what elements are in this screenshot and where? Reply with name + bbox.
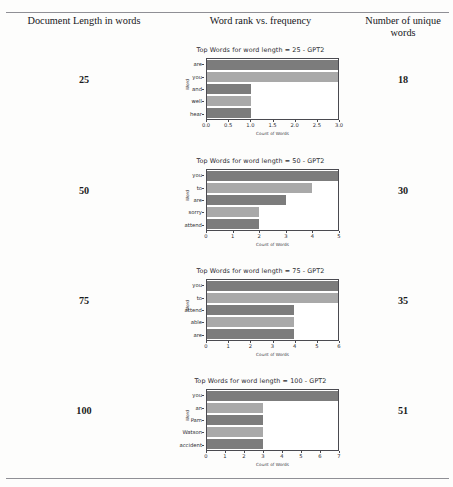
bar-slot [207,71,338,83]
bar-series [207,170,338,230]
cell-word-rank-chart: Top Words for word length = 25 - GPT2Wor… [168,46,353,146]
bar [207,84,251,93]
y-tick-label: Watson [182,426,204,438]
bar-series [207,280,338,340]
x-tick-label: 4 [280,453,283,459]
x-axis-label: Count of Words [206,462,339,467]
y-axis-ticks [202,279,204,341]
y-axis-ticks [202,389,204,451]
bar [207,305,294,314]
bar-series [207,59,338,119]
table-top-rule [6,12,449,13]
bar [207,183,312,192]
cell-word-rank-chart: Top Words for word length = 50 - GPT2Wor… [168,157,353,257]
bar-slot [207,426,338,438]
bar [207,293,338,302]
cell-document-length: 100 [0,377,168,416]
cell-word-rank-chart: Top Words for word length = 100 - GPT2Wo… [168,377,353,477]
cell-document-length: 50 [0,157,168,196]
column-header-word-rank: Word rank vs. frequency [168,15,353,39]
bar [207,415,263,424]
bar [207,60,338,69]
bar-series [207,390,338,450]
bar-slot [207,206,338,218]
bar [207,171,338,180]
bar-slot [207,83,338,95]
bar [207,96,251,105]
bar-slot [207,170,338,182]
bar-chart: Top Words for word length = 100 - GPT2Wo… [168,377,353,477]
x-tick-label: 3.0 [335,122,343,128]
x-tick-label: 5 [315,343,318,349]
bar [207,195,286,204]
bar [207,427,263,436]
cell-unique-words: 30 [353,157,453,196]
x-tick-label: 5 [299,453,302,459]
x-tick-label: 0.0 [202,122,210,128]
y-axis-ticks [202,58,204,120]
chart-title: Top Words for word length = 50 - GPT2 [168,157,353,165]
x-tick-label: 2.0 [291,122,299,128]
bar [207,72,338,81]
bar-slot [207,107,338,119]
bar [207,219,259,228]
x-tick-label: 5 [337,233,340,239]
x-tick-label: 2 [249,343,252,349]
plot-area [206,58,339,120]
table-row: 100Top Words for word length = 100 - GPT… [0,377,453,477]
bar-slot [207,182,338,194]
bar-chart: Top Words for word length = 50 - GPT2Wor… [168,157,353,257]
cell-unique-words: 35 [353,267,453,306]
table-header-row: Document Length in words Word rank vs. f… [0,15,453,39]
bar-chart: Top Words for word length = 25 - GPT2Wor… [168,46,353,146]
y-axis-tick-labels: youanPamWatsonaccident [168,389,204,451]
bar-slot [207,414,338,426]
bar-slot [207,438,338,450]
x-tick-label: 3 [261,453,264,459]
x-tick-label: 6 [318,453,321,459]
bar [207,391,338,400]
bar [207,403,263,412]
bar-slot [207,304,338,316]
table-bottom-rule [6,478,449,479]
y-tick-label: accident [179,439,204,451]
plot-area [206,169,339,231]
chart-title: Top Words for word length = 75 - GPT2 [168,267,353,275]
x-tick-label: 3 [271,343,274,349]
bar-chart: Top Words for word length = 75 - GPT2Wor… [168,267,353,367]
y-axis-ticks [202,169,204,231]
x-tick-label: 2 [242,453,245,459]
column-header-unique-words: Number of unique words [353,15,453,39]
bar-slot [207,316,338,328]
bar-slot [207,59,338,71]
bar [207,439,263,448]
x-tick-label: 4 [293,343,296,349]
table-figure-page: Document Length in words Word rank vs. f… [0,0,453,487]
x-axis-label: Count of Words [206,242,339,247]
bar [207,317,294,326]
bar-slot [207,218,338,230]
cell-unique-words: 51 [353,377,453,416]
chart-title: Top Words for word length = 100 - GPT2 [168,377,353,385]
bar-slot [207,292,338,304]
bar [207,108,251,117]
x-tick-label: 2.5 [313,122,321,128]
cell-word-rank-chart: Top Words for word length = 75 - GPT2Wor… [168,267,353,367]
x-tick-label: 2 [258,233,261,239]
x-tick-label: 6 [337,343,340,349]
table-row: 25Top Words for word length = 25 - GPT2W… [0,46,453,146]
bar-slot [207,390,338,402]
x-tick-label: 1.5 [268,122,276,128]
x-tick-label: 4 [311,233,314,239]
x-tick-label: 7 [337,453,340,459]
plot-area [206,279,339,341]
table-row: 75Top Words for word length = 75 - GPT2W… [0,267,453,367]
bar-slot [207,280,338,292]
x-tick-label: 0 [204,453,207,459]
cell-unique-words: 18 [353,46,453,85]
x-axis-label: Count of Words [206,131,339,136]
plot-area [206,389,339,451]
x-tick-label: 3 [284,233,287,239]
x-tick-label: 1.0 [246,122,254,128]
bar-slot [207,402,338,414]
